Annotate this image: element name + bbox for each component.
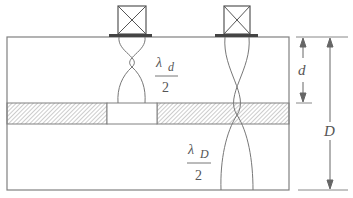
svg-text:D: D (199, 147, 209, 161)
label-lambda-d-half: λ d 2 (155, 55, 178, 95)
diagram-canvas: λ d 2 λ D 2 d (0, 0, 353, 198)
right-transducer (215, 6, 258, 37)
svg-text:2: 2 (195, 168, 202, 183)
diagram-svg: λ d 2 λ D 2 d (0, 0, 353, 198)
svg-text:λ: λ (187, 142, 194, 157)
dimension-d-label: d (298, 62, 306, 78)
label-lambda-D-half: λ D 2 (187, 142, 211, 183)
layer-gap (107, 103, 157, 124)
transducer-plate (109, 34, 152, 37)
transducer-plate (215, 34, 258, 37)
svg-text:d: d (168, 60, 175, 74)
left-beam (118, 37, 145, 103)
extension-lines (296, 37, 348, 190)
svg-text:λ: λ (155, 55, 162, 70)
left-transducer (109, 6, 152, 37)
svg-text:2: 2 (162, 80, 169, 95)
hatched-layer (7, 103, 289, 124)
dimension-D (327, 38, 333, 189)
dimension-D-label: D (323, 123, 335, 139)
